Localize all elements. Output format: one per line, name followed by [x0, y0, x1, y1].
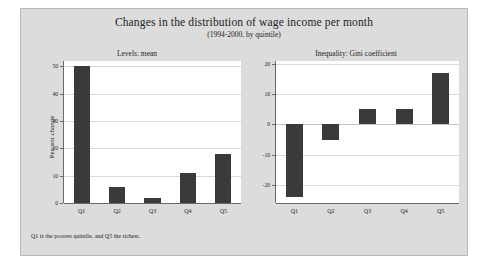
x-axis-tick-label: Q1 [291, 208, 298, 214]
tick-mark [60, 121, 63, 122]
tick-mark [272, 155, 275, 156]
figure-footnote: Q1 is the poorest quintile, and Q5 the r… [31, 233, 140, 239]
y-axis-tick-label: 0 [55, 200, 58, 206]
x-axis-tick-label: Q1 [78, 208, 85, 214]
bar [74, 66, 90, 203]
y-axis-tick-label: -20 [263, 182, 270, 188]
tick-mark [272, 64, 275, 65]
tick-mark [60, 66, 63, 67]
y-axis-tick-label: -10 [263, 152, 270, 158]
x-axis-tick-label: Q2 [327, 208, 334, 214]
gridline [64, 94, 241, 95]
bar [215, 154, 231, 203]
y-axis-tick-label: 10 [52, 173, 58, 179]
bar [286, 124, 303, 197]
panel-title-levels-mean: Levels: mean [29, 49, 245, 58]
x-axis-tick-label: Q3 [364, 208, 371, 214]
plot-area-left: 01020304050Q1Q2Q3Q4Q5 [63, 61, 241, 203]
y-axis-tick-label: 20 [52, 145, 58, 151]
y-axis-tick-label: 50 [52, 63, 58, 69]
chart-panel-gini: Inequality: Gini coefficient -20-1001020… [249, 49, 463, 225]
x-axis-tick-label: Q5 [437, 208, 444, 214]
tick-mark [272, 185, 275, 186]
bar [109, 187, 125, 203]
figure-title: Changes in the distribution of wage inco… [21, 15, 467, 29]
gridline [64, 121, 241, 122]
tick-mark [272, 94, 275, 95]
figure-panel: Changes in the distribution of wage inco… [20, 8, 468, 256]
bar [180, 173, 196, 203]
gridline [276, 64, 459, 65]
tick-mark [60, 148, 63, 149]
gridline [276, 185, 459, 186]
y-axis-tick-label: 40 [52, 91, 58, 97]
bar [322, 124, 339, 139]
tick-mark [272, 124, 275, 125]
chart-panel-levels-mean: Levels: mean Percent change 01020304050Q… [29, 49, 245, 225]
x-axis-tick-label: Q3 [149, 208, 156, 214]
y-axis-tick-label: 0 [267, 121, 270, 127]
plot-area-right: -20-1001020Q1Q2Q3Q4Q5 [275, 61, 459, 203]
x-axis-tick-label: Q2 [113, 208, 120, 214]
figure-subtitle: (1994-2000, by quintile) [21, 29, 467, 40]
gridline [64, 148, 241, 149]
title-block: Changes in the distribution of wage inco… [21, 15, 467, 40]
tick-mark [60, 176, 63, 177]
bar [396, 109, 413, 124]
tick-mark [60, 94, 63, 95]
gridline [276, 155, 459, 156]
tick-mark [60, 203, 63, 204]
gridline [64, 66, 241, 67]
panel-title-gini: Inequality: Gini coefficient [249, 49, 463, 58]
gridline [276, 124, 459, 125]
x-axis-spine [64, 203, 241, 204]
x-axis-tick-label: Q5 [220, 208, 227, 214]
y-axis-tick-label: 20 [264, 61, 270, 67]
x-axis-tick-label: Q4 [184, 208, 191, 214]
bar [432, 73, 449, 124]
y-axis-tick-label: 30 [52, 118, 58, 124]
x-axis-spine [276, 203, 459, 204]
y-axis-tick-label: 10 [264, 91, 270, 97]
x-axis-tick-label: Q4 [400, 208, 407, 214]
bar [359, 109, 376, 124]
